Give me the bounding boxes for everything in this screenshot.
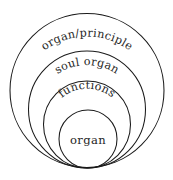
diagram-canvas: organ/principle soul organ functions org…: [0, 0, 173, 180]
label-organ-principle-text: organ/principle: [39, 26, 136, 53]
nested-circles-diagram: organ/principle soul organ functions org…: [0, 0, 173, 180]
label-soul-organ: soul organ: [52, 55, 121, 76]
label-soul-organ-text: soul organ: [52, 55, 121, 76]
label-functions: functions: [56, 79, 119, 101]
label-organ: organ: [70, 133, 106, 147]
label-organ-principle: organ/principle: [39, 26, 136, 53]
circle-functions[interactable]: [44, 81, 131, 168]
label-functions-text: functions: [56, 79, 119, 101]
